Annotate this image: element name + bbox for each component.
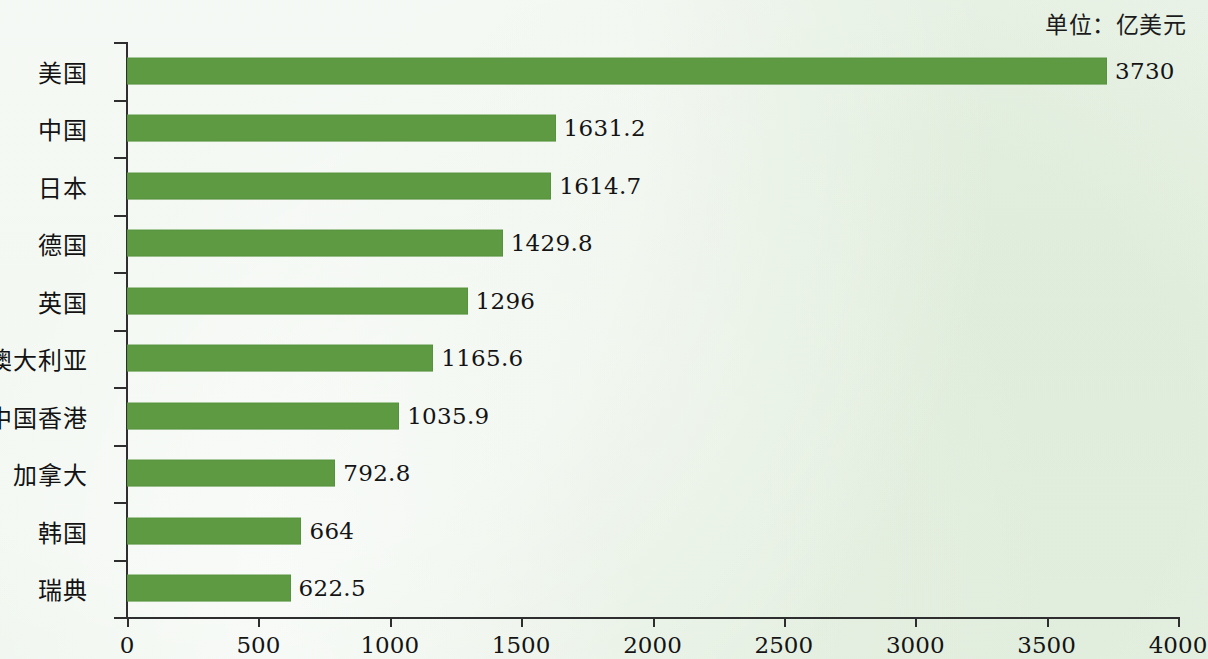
y-axis-tick [114,387,127,389]
category-label: 澳大利亚 [0,341,88,376]
bar-value-label: 1429.8 [511,230,593,256]
category-label: 加拿大 [13,456,88,491]
x-axis-tick [521,617,523,627]
x-axis-tick-label: 2000 [623,632,682,658]
x-axis-tick-label: 500 [236,632,280,658]
bar-value-label: 3730 [1115,58,1175,84]
bar-value-label: 1614.7 [559,173,641,199]
bar [127,287,468,314]
x-axis-tick [1178,617,1180,627]
x-axis-tick [653,617,655,627]
bar [127,115,556,142]
y-axis-tick [114,617,127,619]
bar-value-label: 1165.6 [441,345,523,371]
y-axis-tick [114,330,127,332]
bar [127,230,503,257]
x-axis-tick [784,617,786,627]
x-axis-tick-label: 2500 [755,632,814,658]
x-axis-tick-label: 1500 [492,632,551,658]
category-label: 中国香港 [0,398,88,433]
bar [127,575,291,602]
x-axis-tick-label: 3000 [886,632,945,658]
x-axis-tick [915,617,917,627]
bar-value-label: 1296 [476,288,536,314]
bar-value-label: 1035.9 [407,403,489,429]
bar [127,460,335,487]
category-label: 中国 [38,111,88,146]
horizontal-bar-chart: 单位：亿美元 美国3730中国1631.2日本1614.7德国1429.8英国1… [0,0,1208,659]
x-axis-tick [258,617,260,627]
bar-value-label: 792.8 [343,460,410,486]
bar [127,172,551,199]
y-axis-tick [114,157,127,159]
x-axis-tick-label: 4000 [1149,632,1208,658]
bar-value-label: 664 [309,518,354,544]
bar [127,517,301,544]
category-label: 美国 [38,53,88,88]
x-axis-tick [127,617,129,627]
x-axis-tick-label: 1000 [360,632,419,658]
x-axis-tick-label: 3500 [1017,632,1076,658]
y-axis-tick [114,560,127,562]
y-axis-tick [114,100,127,102]
y-axis-tick [114,502,127,504]
category-label: 英国 [38,283,88,318]
bar-value-label: 1631.2 [564,115,646,141]
x-axis-tick [1047,617,1049,627]
unit-note-label: 单位：亿美元 [1045,6,1186,40]
category-label: 日本 [38,168,88,203]
y-axis-tick [114,272,127,274]
x-axis-tick-label: 0 [120,632,135,658]
y-axis-tick [114,215,127,217]
category-label: 韩国 [38,513,88,548]
y-axis-tick [114,445,127,447]
y-axis-tick [114,42,127,44]
bar [127,402,399,429]
category-label: 瑞典 [38,571,88,606]
category-label: 德国 [38,226,88,261]
bar [127,345,433,372]
bar-value-label: 622.5 [299,575,366,601]
plot-area: 美国3730中国1631.2日本1614.7德国1429.8英国1296澳大利亚… [127,42,1178,617]
bar [127,57,1107,84]
x-axis-tick [390,617,392,627]
